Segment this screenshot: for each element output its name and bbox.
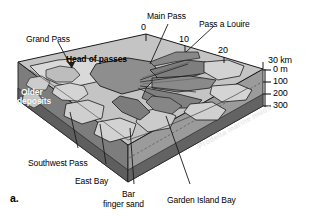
vertical-depth-scale [263,69,271,107]
depth-tick-100: 100 [273,77,288,87]
label-east-bay: East Bay [75,177,108,187]
leader-pass-a-louire [186,26,214,52]
label-southwest-pass: Southwest Pass [28,159,88,169]
label-garden-island-bay: Garden Island Bay [167,196,236,206]
depth-tick-300: 300 [273,101,288,111]
depth-tick-200: 200 [273,89,288,99]
scale-tick-0: 0 [141,23,146,33]
scale-tick-10: 10 [179,35,189,45]
label-pass-a-louire: Pass a Louire [199,20,250,30]
label-main-pass: Main Pass [147,12,186,22]
figure-container: Main Pass Pass a Louire Grand Pass Head … [0,0,312,216]
label-grand-pass: Grand Pass [26,35,70,45]
panel-label: a. [10,194,19,204]
label-bar-finger-sand-line2: finger sand [103,200,144,210]
scale-tick-20: 20 [218,46,228,56]
depth-tick-0m: 0 m [273,65,288,75]
label-older-deposits-line2: deposits [17,97,51,107]
label-head-of-passes: Head of passes [66,55,127,65]
